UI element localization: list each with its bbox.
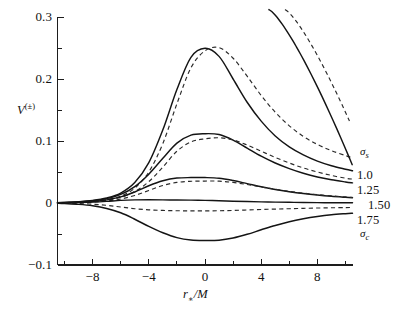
y-tick-label: 0 xyxy=(0,195,52,211)
y-axis-title-superscript: (±) xyxy=(25,101,35,111)
y-axis-title-main: V xyxy=(17,103,25,117)
x-tick-label: −4 xyxy=(124,269,174,285)
curve-label-text: 1.75 xyxy=(357,213,379,227)
plot-canvas xyxy=(0,0,409,314)
curve-label-sigma-1-75: 1.75 xyxy=(357,213,379,228)
curve-__s xyxy=(58,48,353,202)
curve-label-text: 1.0 xyxy=(357,168,373,182)
curve-steep-dashed xyxy=(285,10,349,121)
curve-label-sigma-1-00: 1.0 xyxy=(357,168,373,183)
curve-__s-dashed xyxy=(58,47,353,203)
y-tick-label: 0.1 xyxy=(0,133,52,149)
axes-group xyxy=(58,17,353,265)
curve-label-sigma-1-25: 1.25 xyxy=(357,183,379,198)
x-tick-label: 8 xyxy=(292,269,342,285)
x-tick-label: −8 xyxy=(68,269,118,285)
curve-label-subscript: c xyxy=(366,232,370,242)
curve-label-text: 1.50 xyxy=(368,198,390,212)
y-tick-label: 0.2 xyxy=(0,71,52,87)
curve-label-sigma-s: σs xyxy=(360,145,369,160)
x-tick-label: 4 xyxy=(236,269,286,285)
curve-label-sigma-c: σc xyxy=(360,227,369,242)
x-tick-label: 0 xyxy=(180,269,230,285)
curve-label-sigma-1-50: 1.50 xyxy=(368,198,390,213)
curve-label-text: 1.25 xyxy=(357,183,379,197)
y-axis-title: V(±) xyxy=(17,101,35,118)
y-tick-label: −0.1 xyxy=(0,257,52,273)
curves-group xyxy=(58,10,353,241)
curve-label-subscript: s xyxy=(366,150,369,160)
curve-1.0 xyxy=(58,134,353,203)
x-axis-title-tail: /M xyxy=(194,287,208,301)
curve-__c xyxy=(58,203,353,240)
y-tick-label: 0.3 xyxy=(0,9,52,25)
x-axis-title: r∗/M xyxy=(183,287,208,304)
effective-potential-figure: 0.30.20.10−0.1 −8−4048 σs1.01.251.501.75… xyxy=(0,0,409,314)
curve-1.0-dashed xyxy=(58,138,353,203)
